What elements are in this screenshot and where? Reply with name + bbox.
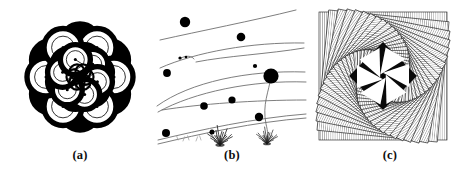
- curve-group: [157, 10, 306, 144]
- dot-3: [178, 56, 181, 59]
- dot-8: [200, 102, 208, 110]
- panel-b-label: (b): [156, 148, 308, 162]
- curve-second-upper: [160, 43, 304, 68]
- dot-5: [163, 69, 171, 77]
- panel-c-artwork: [312, 0, 468, 150]
- figure-root: (a) (b) (c): [0, 0, 470, 175]
- curve-stem: [265, 76, 271, 140]
- tuft-right-base: [263, 142, 271, 145]
- dot-4: [185, 56, 188, 59]
- figure-panel-b: (b): [156, 0, 308, 175]
- panel-a-artwork: [4, 0, 156, 150]
- panel-c-label: (c): [312, 148, 468, 162]
- panel-a-label: (a): [4, 148, 156, 162]
- curve-top: [160, 10, 296, 40]
- scrub-mark-3: [196, 137, 198, 141]
- curve-fifth-lower: [158, 118, 306, 144]
- dot-11: [162, 129, 170, 137]
- dot-7-large: [263, 68, 278, 83]
- figure-panel-a: (a): [4, 0, 156, 175]
- dot-2: [237, 33, 246, 42]
- figure-panel-c: (c): [312, 0, 468, 175]
- tuft-left-base: [215, 143, 224, 147]
- dot-6: [253, 64, 257, 68]
- star-center-dot: [382, 75, 385, 78]
- curve-second-lower: [196, 48, 304, 62]
- dot-9: [228, 96, 235, 103]
- dot-group: [162, 17, 279, 137]
- scrub-mark-4: [200, 136, 201, 140]
- rosette-center-dot: [78, 75, 81, 78]
- lobe-center-dot-inner-11: [74, 58, 77, 61]
- dot-12: [210, 130, 215, 135]
- dot-1: [180, 17, 190, 27]
- panel-b-artwork: [156, 0, 308, 150]
- scrub-mark-1: [183, 137, 185, 141]
- dot-10: [255, 113, 263, 121]
- curve-fifth-upper: [158, 114, 306, 140]
- scrub-mark-2: [188, 136, 189, 140]
